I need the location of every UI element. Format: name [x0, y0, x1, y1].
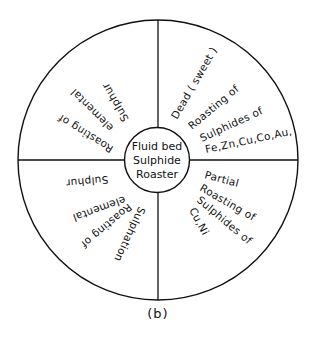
hub-line-1: Fluid bed [132, 140, 183, 153]
hub-label: Fluid bed Sulphide Roaster [132, 140, 183, 181]
bl-line-4: Sulphur [65, 174, 109, 190]
quadrant-bottom-left: Sulphation Roasting of elemental Sulphur [65, 174, 148, 264]
hub-line-2: Sulphide [133, 154, 181, 167]
quadrant-top-right: Dead ( sweet ) Roasting of Sulphides of … [168, 45, 293, 155]
fluid-bed-roaster-diagram: Fluid bed Sulphide Roaster Dead ( sweet … [0, 0, 313, 339]
figure-caption: (b) [147, 306, 168, 321]
quadrant-top-left: Roasting of elemental Sulphur [56, 81, 131, 156]
quadrant-bottom-right: Partial Roasting of Sulphides of Cu,Ni [187, 168, 258, 246]
hub-line-3: Roaster [136, 168, 178, 181]
